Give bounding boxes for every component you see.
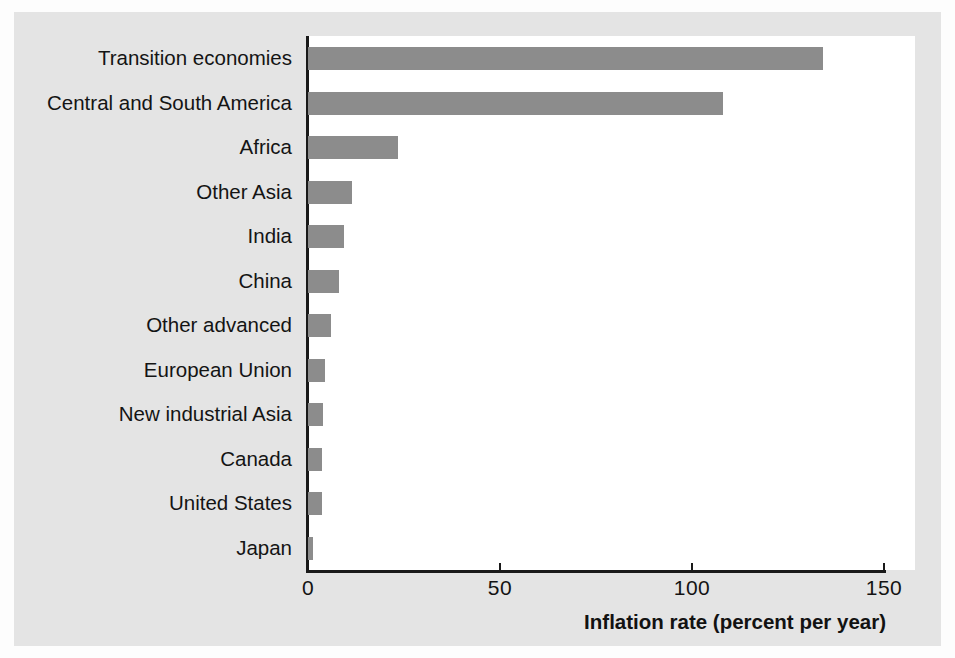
category-label: China: [238, 259, 292, 304]
category-label: India: [248, 214, 292, 259]
x-tick-label-0: 0: [302, 576, 314, 600]
chart-row: Africa: [0, 125, 955, 170]
x-axis-line: [306, 570, 886, 573]
category-label: Other advanced: [146, 303, 292, 348]
chart-row: India: [0, 214, 955, 259]
bar: [308, 359, 325, 382]
category-label: Africa: [240, 125, 292, 170]
x-tick-label-100: 100: [674, 576, 711, 600]
x-tick-label-50: 50: [488, 576, 512, 600]
category-label: Transition economies: [98, 36, 292, 81]
chart-row: Transition economies: [0, 36, 955, 81]
chart-row: Central and South America: [0, 81, 955, 126]
chart-figure: 0 50 100 150 Transition economies Centra…: [0, 0, 955, 658]
bar: [308, 136, 398, 159]
bar: [308, 448, 322, 471]
bar: [308, 403, 323, 426]
bar: [308, 492, 322, 515]
chart-row: Other Asia: [0, 170, 955, 215]
category-label: European Union: [144, 348, 292, 393]
bar: [308, 270, 339, 293]
chart-row: Canada: [0, 437, 955, 482]
page-edge-top: [0, 0, 955, 12]
category-label: Central and South America: [47, 81, 292, 126]
category-label: New industrial Asia: [119, 392, 292, 437]
bar: [308, 47, 823, 70]
bar: [308, 225, 344, 248]
bar: [308, 314, 331, 337]
chart-row: Japan: [0, 526, 955, 571]
chart-row: China: [0, 259, 955, 304]
page-edge-bottom: [0, 646, 955, 658]
page-edge-right: [941, 0, 955, 658]
bar: [308, 537, 313, 560]
x-axis-title: Inflation rate (percent per year): [584, 610, 886, 634]
category-label: Canada: [220, 437, 292, 482]
category-label: Other Asia: [196, 170, 292, 215]
chart-row: Other advanced: [0, 303, 955, 348]
category-label: Japan: [236, 526, 292, 571]
chart-row: New industrial Asia: [0, 392, 955, 437]
category-label: United States: [169, 481, 292, 526]
bar: [308, 181, 352, 204]
page-edge-left: [0, 0, 14, 658]
chart-row: United States: [0, 481, 955, 526]
bar: [308, 92, 723, 115]
x-tick-label-150: 150: [866, 576, 903, 600]
chart-row: European Union: [0, 348, 955, 393]
